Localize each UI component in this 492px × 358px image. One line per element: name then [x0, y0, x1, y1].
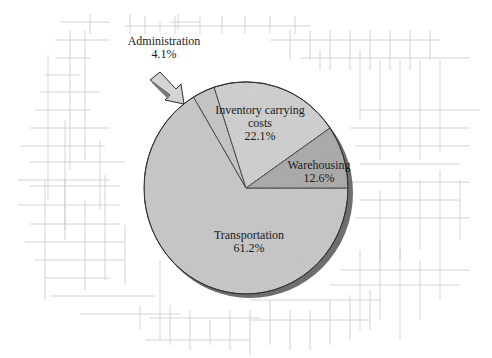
label-warehousing: Warehousing 12.6%	[276, 159, 362, 185]
label-transportation: Transportation 61.2%	[206, 229, 292, 255]
warehousing-pct: 12.6%	[276, 172, 362, 185]
chart-stage: Administration 4.1% Inventory carrying c…	[0, 0, 492, 358]
administration-pct: 4.1%	[118, 48, 210, 61]
label-administration: Administration 4.1%	[118, 35, 210, 61]
transportation-pct: 61.2%	[206, 242, 292, 255]
pie-chart-svg	[0, 0, 492, 358]
inventory-pct: 22.1%	[200, 130, 320, 143]
label-inventory: Inventory carrying costs 22.1%	[200, 104, 320, 143]
arrow-icon	[150, 72, 184, 104]
